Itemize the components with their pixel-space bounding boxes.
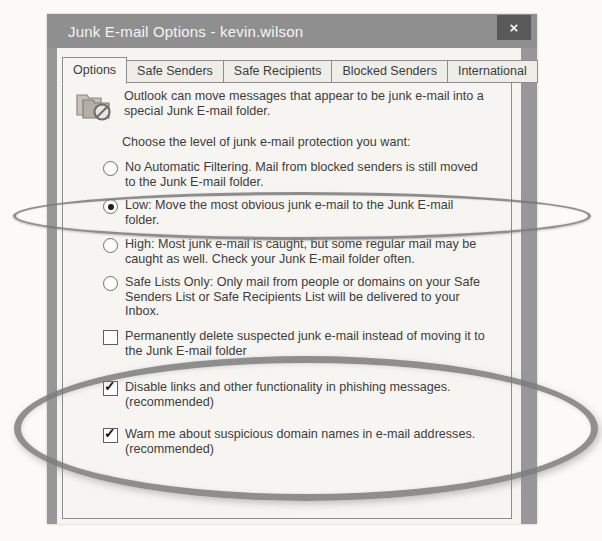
tab-international[interactable]: International: [448, 60, 538, 83]
checkbox-box[interactable]: ✓: [103, 330, 118, 345]
checkbox-box[interactable]: ✓: [103, 428, 118, 443]
tab-safe-recipients[interactable]: Safe Recipients: [224, 60, 333, 83]
dialog-title: Junk E-mail Options - kevin.wilson: [47, 23, 303, 40]
radio-label: No Automatic Filtering. Mail from blocke…: [125, 160, 478, 189]
intro-section: Outlook can move messages that appear to…: [75, 89, 484, 125]
radio-dot: [108, 204, 114, 210]
checkbox-label: Warn me about suspicious domain names in…: [125, 427, 475, 456]
checkbox-permanently-delete[interactable]: ✓ Permanently delete suspected junk e-ma…: [103, 329, 485, 358]
radio-no-automatic-filtering[interactable]: No Automatic Filtering. Mail from blocke…: [103, 160, 478, 189]
checkbox-label: Permanently delete suspected junk e-mail…: [125, 329, 485, 358]
checkbox-box[interactable]: ✓: [103, 381, 118, 396]
radio-high[interactable]: High: Most junk e-mail is caught, but so…: [103, 237, 476, 266]
checkbox-label: Disable links and other functionality in…: [125, 380, 451, 409]
options-tab-panel: Outlook can move messages that appear to…: [62, 82, 512, 519]
junk-email-folder-icon: [75, 89, 113, 125]
dialog-titlebar: Junk E-mail Options - kevin.wilson ×: [47, 14, 537, 48]
radio-button[interactable]: [103, 276, 118, 291]
radio-label: Safe Lists Only: Only mail from people o…: [125, 275, 480, 319]
protection-prompt: Choose the level of junk e-mail protecti…: [122, 135, 410, 150]
checkbox-disable-phishing-links[interactable]: ✓ Disable links and other functionality …: [103, 380, 451, 409]
checkmark-icon: ✓: [104, 378, 116, 394]
radio-button[interactable]: [103, 238, 118, 253]
close-icon: ×: [510, 20, 519, 35]
tab-safe-senders[interactable]: Safe Senders: [127, 60, 224, 83]
dialog-content: Options Safe Senders Safe Recipients Blo…: [57, 48, 521, 524]
tab-options[interactable]: Options: [62, 57, 127, 84]
intro-text: Outlook can move messages that appear to…: [124, 89, 484, 118]
radio-button[interactable]: [103, 199, 118, 214]
radio-safe-lists-only[interactable]: Safe Lists Only: Only mail from people o…: [103, 275, 480, 319]
checkbox-warn-suspicious-domains[interactable]: ✓ Warn me about suspicious domain names …: [103, 427, 475, 456]
radio-button[interactable]: [103, 161, 118, 176]
junk-email-options-dialog: Junk E-mail Options - kevin.wilson × Opt…: [47, 14, 537, 524]
tab-strip: Options Safe Senders Safe Recipients Blo…: [62, 57, 538, 83]
tab-blocked-senders[interactable]: Blocked Senders: [332, 60, 448, 83]
radio-label: High: Most junk e-mail is caught, but so…: [125, 237, 476, 266]
close-button[interactable]: ×: [497, 15, 531, 40]
checkmark-icon: ✓: [104, 425, 116, 441]
radio-label: Low: Move the most obvious junk e-mail t…: [125, 198, 453, 227]
radio-low[interactable]: Low: Move the most obvious junk e-mail t…: [103, 198, 453, 227]
